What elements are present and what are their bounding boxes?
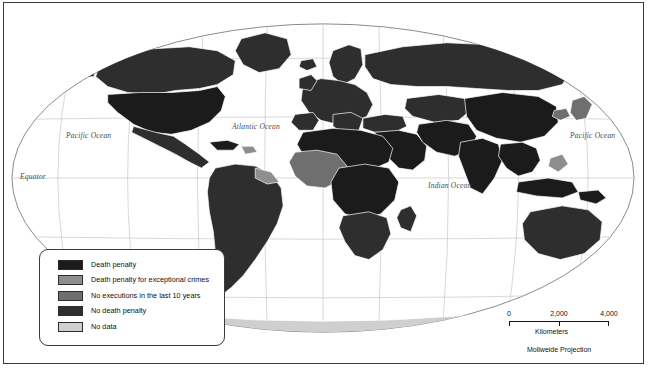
legend-item: No data [58,319,224,334]
label-pacific-ocean-right: Pacific Ocean [570,131,615,140]
legend-label: Death penalty for exceptional crimes [91,276,209,283]
legend-label: No data [91,323,117,330]
projection-note: Mollweide Projection [527,346,591,353]
label-atlantic-ocean: Atlantic Ocean [232,122,280,131]
legend-item: Death penalty [58,257,224,272]
map-frame: Pacific Ocean Pacific Ocean Atlantic Oce… [3,2,644,364]
scale-bar: 0 2,000 4,000 Kilometers [509,310,615,335]
legend-label: No executions in the last 10 years [91,292,201,299]
scale-tick-label: 0 [507,310,511,317]
legend-swatch-no-data [58,322,83,332]
region-turkey-caucasus [363,114,407,132]
legend-item: No executions in the last 10 years [58,288,224,303]
scale-tick-label: 2,000 [550,310,568,317]
label-equator: Equator [20,172,46,181]
scale-bar-tick [559,321,560,326]
scale-bar-tick [608,321,609,326]
label-indian-ocean: Indian Ocean [428,181,471,190]
legend-label: No death penalty [91,307,146,314]
scale-bar-axis [509,321,615,327]
scale-bar-units: Kilometers [509,328,615,335]
scale-bar-numbers: 0 2,000 4,000 [509,310,615,320]
legend-item: No death penalty [58,304,224,319]
legend-label: Death penalty [91,261,136,268]
label-pacific-ocean-left: Pacific Ocean [66,131,111,140]
country-russia [365,43,570,91]
scale-tick-label: 4,000 [600,310,618,317]
country-new-zealand [606,250,622,270]
legend-item: Death penalty for exceptional crimes [58,273,224,288]
legend-swatch-exceptional-crimes [58,275,83,285]
legend-swatch-no-death-penalty [58,306,83,316]
map-figure: Pacific Ocean Pacific Ocean Atlantic Oce… [0,0,648,383]
map-legend: Death penalty Death penalty for exceptio… [39,249,225,346]
scale-bar-tick [509,321,510,326]
legend-swatch-no-executions [58,291,83,301]
legend-swatch-death-penalty [58,260,83,270]
country-alaska [62,57,98,79]
